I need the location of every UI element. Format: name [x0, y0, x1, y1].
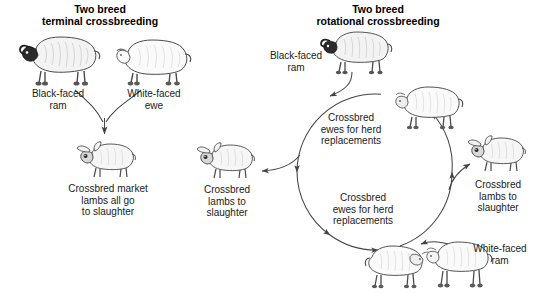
white-faced-ewe-label: White-faced ewe: [109, 88, 199, 111]
crossbred-market-lambs-label: Crossbred market lambs all go to slaught…: [44, 183, 172, 218]
panel-title-terminal: Two breed terminal crossbreeding: [20, 3, 180, 27]
crossbred-ewes-lower-label: Crossbred ewes for herd replacements: [315, 192, 411, 227]
white-faced-ewe: [112, 30, 196, 87]
black-faced-ram: [14, 27, 108, 87]
white-faced-ram-label: White-faced ram: [457, 243, 543, 266]
crossbred-lambs-right-label: Crossbred lambs to slaughter: [453, 179, 543, 214]
crossbred-market-lamb: [76, 137, 136, 179]
crossbred-ewes-upper-label: Crossbred ewes for herd replacements: [303, 112, 399, 147]
rotational-black-faced-ram-label: Black-faced ram: [256, 50, 336, 73]
crossbred-lambs-left-label: Crossbred lambs to slaughter: [184, 184, 270, 219]
black-faced-ram-label: Black-faced ram: [8, 88, 108, 111]
cycle-to-left-lamb-arrow: [262, 155, 300, 171]
crossbred-ewe-upper: [392, 79, 470, 131]
crossbreeding-diagram: Two breed terminal crossbreeding: [0, 0, 550, 298]
crossbred-ewe-lower: [358, 239, 432, 291]
crossbred-lamb-left: [197, 138, 255, 180]
crossbred-lamb-right: [468, 131, 526, 173]
